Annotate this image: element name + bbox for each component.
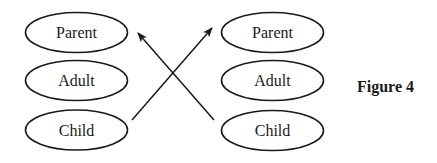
right-parent-label: Parent xyxy=(252,24,293,41)
right-adult-node: Adult xyxy=(222,61,324,101)
left-parent-label: Parent xyxy=(56,24,97,41)
right-parent-node: Parent xyxy=(222,13,324,53)
left-parent-node: Parent xyxy=(26,13,128,53)
left-adult-node: Adult xyxy=(26,61,128,101)
right-child-node: Child xyxy=(222,111,324,151)
right-adult-label: Adult xyxy=(254,72,291,89)
figure-caption: Figure 4 xyxy=(357,78,414,96)
arrow-left-child-to-right-parent-icon xyxy=(132,28,212,120)
right-child-label: Child xyxy=(255,122,291,139)
right-column: Parent Adult Child xyxy=(222,13,324,151)
edges xyxy=(132,28,214,120)
left-adult-label: Adult xyxy=(58,72,95,89)
left-child-label: Child xyxy=(59,122,95,139)
left-column: Parent Adult Child xyxy=(26,13,128,151)
arrow-right-child-to-left-parent-icon xyxy=(138,33,214,120)
left-child-node: Child xyxy=(26,110,128,150)
transaction-diagram: Parent Adult Child Parent Adult Child Fi… xyxy=(0,0,437,163)
